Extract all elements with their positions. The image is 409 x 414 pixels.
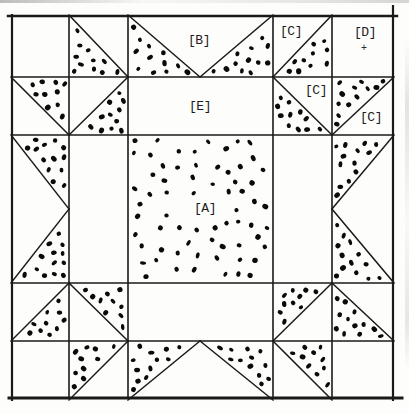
- speckles-geese-left-top: [24, 137, 67, 189]
- piece-labels: [B] [C] [D] + [E] [C] [C] [A]: [188, 24, 382, 216]
- speckles-hst-r4c4: [277, 287, 319, 326]
- piece-label-a: [A]: [194, 201, 216, 216]
- scanned-quilt-diagram-page: [B] [C] [D] + [E] [C] [C] [A]: [0, 0, 409, 414]
- scan-artifact-top: [0, 0, 409, 3]
- speckles-hst-r4c2: [82, 286, 124, 330]
- piece-label-c-top: [C]: [280, 24, 302, 39]
- speckles-geese-bottom-left: [130, 343, 181, 393]
- speckles-hst-r4c5: [333, 295, 384, 338]
- piece-label-e: [E]: [189, 99, 211, 114]
- piece-label-c-mid: [C]: [305, 83, 327, 98]
- speckles-hst-r5c4: [290, 344, 331, 388]
- speckles-hst-r4c1: [26, 298, 67, 338]
- speckles-geese-right-top: [333, 140, 378, 199]
- speckles-geese-top-right: [211, 35, 271, 76]
- piece-label-d: [D]: [354, 25, 376, 40]
- speckles-hst-r1c2: [71, 28, 120, 76]
- d-corner-mark: +: [361, 43, 367, 54]
- speckles-hst-r5c2: [71, 344, 116, 391]
- scan-artifact-right: [405, 40, 409, 370]
- speckles-hst-r2c4: [274, 95, 323, 133]
- piece-label-b: [B]: [188, 33, 210, 48]
- quilt-block-figure: [B] [C] [D] + [E] [C] [C] [A]: [0, 0, 409, 414]
- speckles-geese-right-bottom: [334, 222, 383, 280]
- speckles-geese-left-bottom: [22, 231, 67, 279]
- speckles-geese-bottom-right: [216, 345, 271, 387]
- piece-label-c-right: [C]: [360, 110, 382, 125]
- speckles-geese-top-left: [130, 24, 191, 77]
